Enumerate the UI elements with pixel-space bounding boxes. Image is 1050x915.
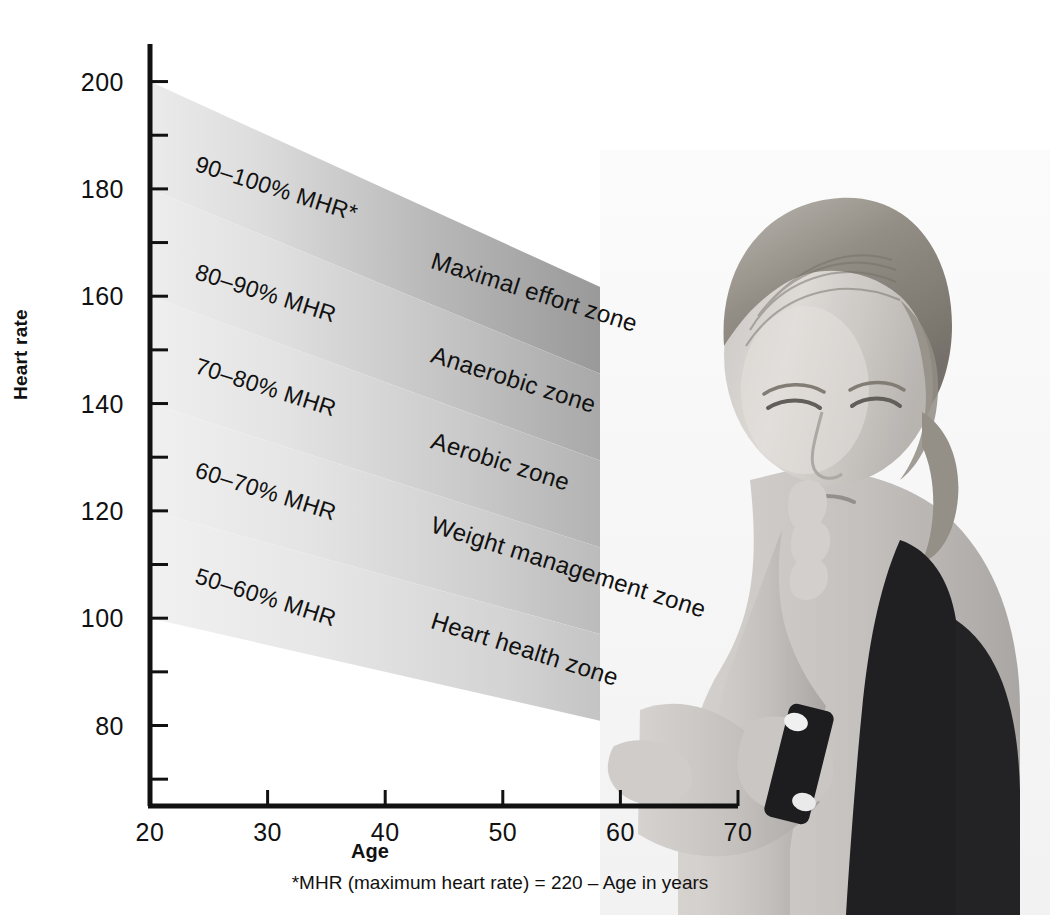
x-axis-title: Age (0, 840, 740, 863)
y-tick-labels: 20018016014012010080 (62, 0, 124, 915)
heart-rate-zone-chart: 90–100% MHR*80–90% MHR70–80% MHR60–70% M… (0, 0, 1050, 915)
y-tick-label: 160 (68, 282, 124, 311)
y-tick-label: 100 (68, 604, 124, 633)
y-tick-label: 180 (68, 174, 124, 203)
y-tick-label: 200 (68, 67, 124, 96)
y-tick-label: 140 (68, 389, 124, 418)
chart-footnote: *MHR (maximum heart rate) = 220 – Age in… (0, 872, 1000, 894)
y-tick-label: 120 (68, 496, 124, 525)
y-axis-title: Heart rate (10, 309, 32, 400)
y-tick-label: 80 (68, 711, 124, 740)
